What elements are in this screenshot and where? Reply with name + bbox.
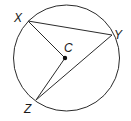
center-point (63, 56, 67, 60)
circle-diagram: X Y Z C (0, 0, 131, 121)
label-x: X (13, 11, 23, 25)
label-z: Z (23, 102, 32, 116)
label-c: C (64, 41, 73, 55)
chord-yz (36, 35, 112, 100)
label-y: Y (114, 28, 123, 42)
